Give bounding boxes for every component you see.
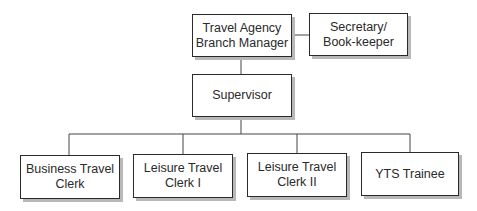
node-business-clerk: Business Travel Clerk <box>20 155 120 199</box>
node-supervisor: Supervisor <box>192 74 292 117</box>
node-manager: Travel Agency Branch Manager <box>192 14 292 57</box>
node-label: Leisure Travel Clerk I <box>144 161 223 191</box>
node-label: YTS Trainee <box>375 167 444 182</box>
node-label: Secretary/ Book-keeper <box>323 20 394 50</box>
node-label: Travel Agency Branch Manager <box>196 21 288 51</box>
node-leisure-clerk-2: Leisure Travel Clerk II <box>247 153 347 197</box>
node-yts-trainee: YTS Trainee <box>361 152 459 196</box>
node-label: Business Travel Clerk <box>26 162 114 192</box>
node-secretary: Secretary/ Book-keeper <box>309 13 408 56</box>
node-label: Supervisor <box>212 88 272 103</box>
node-leisure-clerk-1: Leisure Travel Clerk I <box>133 154 233 198</box>
node-label: Leisure Travel Clerk II <box>258 160 337 190</box>
